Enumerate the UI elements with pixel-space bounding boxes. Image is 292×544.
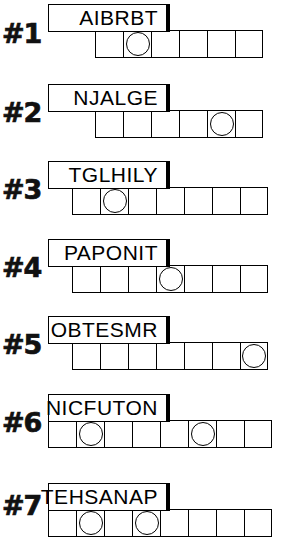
answer-grid bbox=[72, 342, 268, 370]
answer-cell[interactable] bbox=[76, 420, 104, 448]
scrambled-word-text: TEHSANAP bbox=[41, 486, 158, 507]
answer-grid bbox=[72, 265, 268, 293]
answer-cell[interactable] bbox=[151, 30, 179, 58]
answer-cell[interactable] bbox=[72, 265, 100, 293]
scrambled-word-text: OBTESMR bbox=[51, 319, 158, 340]
row-index-label: #4 bbox=[2, 254, 41, 281]
answer-cell[interactable] bbox=[132, 509, 160, 537]
circle-marker-icon bbox=[79, 511, 103, 535]
answer-cell[interactable] bbox=[72, 187, 100, 215]
answer-grid bbox=[95, 110, 263, 138]
scrambled-word-box: TGLHILY bbox=[48, 161, 170, 189]
answer-cell[interactable] bbox=[95, 30, 123, 58]
answer-cell[interactable] bbox=[156, 265, 184, 293]
answer-cell[interactable] bbox=[100, 265, 128, 293]
circle-marker-icon bbox=[103, 189, 127, 213]
answer-cell[interactable] bbox=[240, 187, 268, 215]
scrambled-word-text: NJALGE bbox=[73, 87, 158, 108]
scrambled-word-text: AIBRBT bbox=[79, 7, 158, 28]
answer-cell[interactable] bbox=[100, 187, 128, 215]
answer-cell[interactable] bbox=[156, 187, 184, 215]
answer-cell[interactable] bbox=[240, 342, 268, 370]
row-index-label: #2 bbox=[2, 99, 41, 126]
scrambled-word-text: NICFUTON bbox=[46, 397, 158, 418]
answer-cell[interactable] bbox=[128, 342, 156, 370]
answer-cell[interactable] bbox=[179, 30, 207, 58]
answer-cell[interactable] bbox=[212, 265, 240, 293]
answer-cell[interactable] bbox=[179, 110, 207, 138]
answer-cell[interactable] bbox=[184, 265, 212, 293]
answer-cell[interactable] bbox=[212, 342, 240, 370]
row-index-label: #7 bbox=[2, 492, 41, 519]
answer-cell[interactable] bbox=[207, 30, 235, 58]
scrambled-word-box: PAPONIT bbox=[48, 239, 170, 267]
answer-cell[interactable] bbox=[160, 420, 188, 448]
answer-cell[interactable] bbox=[184, 187, 212, 215]
scrambled-word-text: TGLHILY bbox=[69, 164, 158, 185]
answer-cell[interactable] bbox=[100, 342, 128, 370]
answer-cell[interactable] bbox=[235, 30, 263, 58]
answer-cell[interactable] bbox=[104, 420, 132, 448]
answer-cell[interactable] bbox=[188, 509, 216, 537]
scrambled-word-box: AIBRBT bbox=[48, 4, 170, 32]
answer-cell[interactable] bbox=[216, 420, 244, 448]
answer-cell[interactable] bbox=[240, 265, 268, 293]
answer-cell[interactable] bbox=[156, 342, 184, 370]
answer-cell[interactable] bbox=[95, 110, 123, 138]
answer-cell[interactable] bbox=[188, 420, 216, 448]
answer-cell[interactable] bbox=[216, 509, 244, 537]
answer-cell[interactable] bbox=[132, 420, 160, 448]
answer-cell[interactable] bbox=[235, 110, 263, 138]
answer-cell[interactable] bbox=[244, 509, 272, 537]
circle-marker-icon bbox=[242, 344, 266, 368]
answer-cell[interactable] bbox=[48, 420, 76, 448]
row-index-label: #1 bbox=[2, 20, 41, 47]
answer-cell[interactable] bbox=[244, 420, 272, 448]
answer-cell[interactable] bbox=[160, 509, 188, 537]
scrambled-word-box: TEHSANAP bbox=[48, 483, 170, 511]
answer-grid bbox=[48, 420, 272, 448]
row-index-label: #6 bbox=[2, 409, 41, 436]
answer-cell[interactable] bbox=[48, 509, 76, 537]
answer-cell[interactable] bbox=[76, 509, 104, 537]
circle-marker-icon bbox=[126, 32, 150, 56]
answer-cell[interactable] bbox=[184, 342, 212, 370]
answer-grid bbox=[95, 30, 263, 58]
answer-cell[interactable] bbox=[128, 265, 156, 293]
circle-marker-icon bbox=[191, 422, 215, 446]
answer-grid bbox=[72, 187, 268, 215]
answer-cell[interactable] bbox=[207, 110, 235, 138]
answer-cell[interactable] bbox=[151, 110, 179, 138]
answer-cell[interactable] bbox=[212, 187, 240, 215]
answer-cell[interactable] bbox=[123, 110, 151, 138]
scrambled-word-box: OBTESMR bbox=[48, 316, 170, 344]
scrambled-word-text: PAPONIT bbox=[64, 242, 158, 263]
answer-cell[interactable] bbox=[123, 30, 151, 58]
answer-cell[interactable] bbox=[72, 342, 100, 370]
scrambled-word-box: NICFUTON bbox=[48, 394, 170, 422]
circle-marker-icon bbox=[135, 511, 159, 535]
scrambled-word-box: NJALGE bbox=[48, 84, 170, 112]
row-index-label: #5 bbox=[2, 331, 41, 358]
answer-cell[interactable] bbox=[128, 187, 156, 215]
circle-marker-icon bbox=[159, 267, 183, 291]
circle-marker-icon bbox=[210, 112, 234, 136]
row-index-label: #3 bbox=[2, 176, 41, 203]
word-scramble-worksheet: #1AIBRBT#2NJALGE#3TGLHILY#4PAPONIT#5OBTE… bbox=[0, 0, 292, 544]
answer-grid bbox=[48, 509, 272, 537]
circle-marker-icon bbox=[79, 422, 103, 446]
answer-cell[interactable] bbox=[104, 509, 132, 537]
